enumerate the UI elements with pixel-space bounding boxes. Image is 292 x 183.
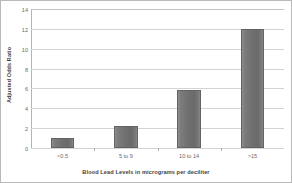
y-axis-tick-label: 10 <box>22 47 28 53</box>
x-axis-tick-label: >15 <box>248 153 258 159</box>
y-axis-title-text: Adjusted Odds Ratio <box>6 47 12 103</box>
x-axis-tick-label: <0.5 <box>57 153 68 159</box>
x-axis-tick-label: 5 to 9 <box>119 153 133 159</box>
plot-area: 02468101214 <box>31 10 284 149</box>
bar <box>241 29 264 148</box>
x-axis-tick <box>94 148 95 151</box>
x-axis-title: Blood Lead Levels in micrograms per deci… <box>1 169 291 175</box>
bar <box>51 138 74 148</box>
y-axis-tick-label: 14 <box>22 7 28 13</box>
bar <box>114 126 137 148</box>
x-axis-tick <box>158 148 159 151</box>
y-axis-tick-label: 2 <box>25 126 28 132</box>
y-axis-tick-label: 0 <box>25 146 28 152</box>
y-axis-tick-label: 12 <box>22 27 28 33</box>
x-axis-tick <box>221 148 222 151</box>
bar-chart-figure: Adjusted Odds Ratio 02468101214 <0.55 to… <box>0 0 292 183</box>
y-axis-tick-label: 4 <box>25 106 28 112</box>
bar <box>177 90 200 148</box>
y-axis-tick-label: 8 <box>25 67 28 73</box>
x-axis-tick-label: 10 to 14 <box>179 153 199 159</box>
gridline <box>31 9 284 10</box>
y-axis-tick-label: 6 <box>25 86 28 92</box>
y-axis-title: Adjusted Odds Ratio <box>2 1 16 149</box>
